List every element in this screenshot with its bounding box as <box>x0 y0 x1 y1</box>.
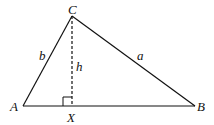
altitude-label-h: h <box>76 59 83 74</box>
foot-label-x: X <box>66 110 76 125</box>
vertex-label-a: A <box>9 99 18 114</box>
side-label-a: a <box>137 48 144 63</box>
right-angle-marker <box>63 97 72 106</box>
vertex-label-b: B <box>197 99 205 114</box>
side-b <box>23 16 72 106</box>
triangle-diagram: C A B X b a h <box>0 0 214 125</box>
side-a <box>72 16 195 106</box>
side-label-b: b <box>39 48 46 63</box>
vertex-label-c: C <box>68 2 77 17</box>
